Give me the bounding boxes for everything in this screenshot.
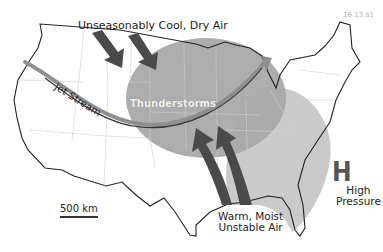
warm-air-line2: Unstable Air	[218, 222, 283, 233]
figure-id: 16.13.a1	[343, 11, 374, 19]
cool-air-arrows	[92, 30, 158, 70]
high-pressure-line2: Pressure	[336, 196, 381, 207]
us-weather-map	[0, 0, 383, 252]
high-pressure-label: High Pressure	[336, 185, 381, 207]
cool-air-label: Unseasonably Cool, Dry Air	[78, 20, 228, 32]
scale-label: 500 km	[60, 204, 98, 215]
scale-bar	[60, 216, 98, 218]
warm-air-label: Warm, Moist Unstable Air	[218, 211, 283, 233]
thunderstorms-label: Thunderstorms	[130, 99, 216, 110]
high-pressure-symbol: H	[332, 157, 352, 187]
